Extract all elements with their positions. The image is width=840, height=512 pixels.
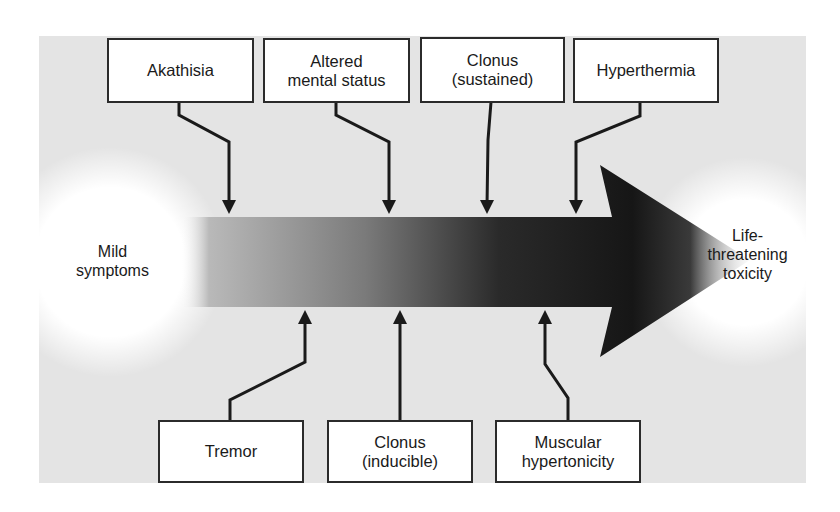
start-label-mild-symptoms: Mild symptoms [50, 242, 175, 280]
box-akathisia: Akathisia [107, 38, 254, 103]
box-muscular-hypertonicity: Muscular hypertonicity [495, 420, 641, 483]
serotonin-toxicity-spectrum-diagram: Mild symptoms Life- threatening toxicity… [0, 0, 840, 512]
end-label-life-threatening-toxicity: Life- threatening toxicity [690, 226, 805, 283]
box-tremor: Tremor [158, 420, 304, 483]
box-hyperthermia: Hyperthermia [573, 38, 719, 103]
box-clonus-inducible: Clonus (inducible) [327, 420, 473, 483]
box-altered-mental-status: Altered mental status [263, 38, 410, 103]
box-clonus-sustained: Clonus (sustained) [420, 37, 565, 103]
